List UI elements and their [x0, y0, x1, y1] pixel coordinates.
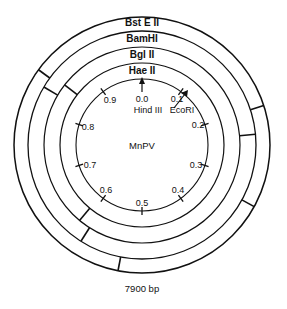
cut-bamhi	[81, 228, 90, 242]
cut-bglii	[65, 85, 78, 95]
map-unit-0.2: 0.2	[192, 120, 205, 130]
cut-bamhi	[44, 87, 58, 95]
cut-bsteii	[250, 105, 263, 109]
tick-0.4	[178, 195, 183, 201]
cut-bglii	[80, 208, 90, 220]
tick-0.6	[101, 195, 106, 201]
map-unit-0.8: 0.8	[82, 122, 95, 132]
virus-name: MnPV	[129, 140, 156, 151]
genome-size-label: 7900 bp	[125, 283, 159, 294]
map-unit-0.9: 0.9	[104, 95, 117, 105]
restriction-map-diagram: Bst E II BamHI Bgl II Hae II 0.0 0.1 0.2…	[0, 0, 287, 309]
ring-label-bsteii: Bst E II	[125, 17, 159, 28]
cut-bsteii	[242, 200, 254, 207]
tick-0.9	[101, 88, 106, 94]
site-label-hindiii: Hind III	[134, 105, 163, 115]
cut-bsteii	[118, 257, 121, 271]
ring-label-bamhi: BamHI	[126, 33, 158, 44]
ring-label-bglii: Bgl II	[130, 49, 155, 60]
ring-label-haeii: Hae II	[129, 65, 156, 76]
map-unit-0.7: 0.7	[84, 160, 97, 170]
site-label-ecori: EcoRI	[170, 105, 195, 115]
map-unit-0.3: 0.3	[190, 160, 203, 170]
cut-bsteii	[38, 70, 49, 78]
map-unit-0.4: 0.4	[172, 185, 185, 195]
restriction-cut-lines	[38, 70, 263, 271]
cut-bamhi	[240, 134, 256, 136]
map-unit-0.6: 0.6	[100, 185, 113, 195]
map-unit-0.1: 0.1	[171, 94, 184, 104]
map-unit-0.0: 0.0	[136, 94, 149, 104]
map-unit-0.5: 0.5	[136, 198, 149, 208]
